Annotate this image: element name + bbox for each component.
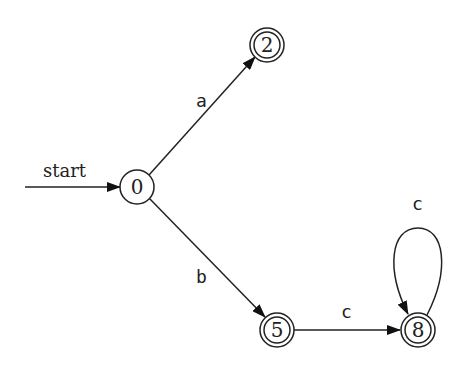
transition-5-8: c (294, 301, 400, 330)
transition-0-5: b (149, 198, 265, 317)
transition-label-a: a (196, 90, 207, 111)
transition-0-2: a (149, 57, 255, 175)
state-2: 2 (250, 28, 284, 62)
state-label-8: 8 (412, 318, 425, 342)
state-label-5: 5 (271, 318, 284, 342)
transition-label-c: c (341, 301, 352, 322)
start-label: start (43, 160, 87, 181)
transition-8-8-loop: c (394, 193, 442, 315)
start-arrow: start (25, 160, 120, 187)
state-label-2: 2 (261, 33, 274, 57)
transition-label-c-loop: c (412, 193, 423, 214)
transition-label-b: b (196, 266, 207, 287)
state-label-0: 0 (131, 175, 144, 199)
automaton-diagram: start a b c c 0 2 5 8 (0, 0, 467, 373)
state-8: 8 (401, 313, 435, 347)
state-5: 5 (260, 313, 294, 347)
state-0: 0 (120, 170, 154, 204)
